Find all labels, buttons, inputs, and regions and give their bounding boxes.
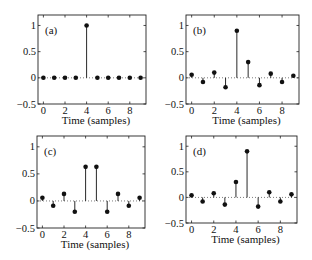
stem-marker: [212, 70, 217, 75]
stem-marker: [189, 72, 194, 77]
x-axis-label: Time (samples): [61, 238, 130, 251]
stem-marker: [268, 71, 273, 76]
stem-marker: [116, 192, 121, 197]
y-tick-label: −0.5: [17, 99, 36, 110]
stem-plot-figure: 02468−0.500.51(a)Time (samples)02468−0.5…: [0, 0, 312, 260]
stem-marker: [200, 199, 205, 204]
stem-marker: [289, 192, 294, 197]
stem-marker: [52, 76, 57, 81]
stem-marker: [41, 76, 46, 81]
y-tick-label: 0.5: [171, 46, 184, 57]
stem-marker: [83, 165, 88, 170]
x-axis-label: Time (samples): [62, 114, 131, 127]
panel-label: (a): [45, 24, 58, 37]
stem-marker: [73, 209, 78, 214]
stem-marker: [84, 23, 89, 28]
x-axis-label: Time (samples): [212, 114, 281, 127]
x-tick-label: 0: [189, 105, 194, 116]
stem-marker: [137, 195, 142, 200]
stem-marker: [201, 80, 206, 85]
stem-marker: [257, 83, 262, 88]
stem-marker: [95, 76, 100, 81]
y-tick-label: 0: [31, 72, 36, 83]
stem-marker: [51, 204, 56, 209]
x-axis-label: Time (samples): [211, 233, 280, 246]
y-tick-label: 0: [179, 72, 184, 83]
stem-marker: [105, 209, 110, 214]
y-tick-label: 1: [30, 141, 35, 152]
y-tick-label: −0.5: [165, 218, 184, 229]
stem-marker: [235, 28, 240, 33]
subplot-d: 02468−0.500.51(d)Time (samples): [165, 136, 297, 246]
stem-marker: [74, 76, 79, 81]
subplot-c: 02468−0.500.51(c)Time (samples): [16, 136, 145, 251]
subplot-a: 02468−0.500.51(a)Time (samples): [17, 15, 146, 127]
stem-marker: [234, 180, 239, 185]
y-tick-label: 0.5: [22, 168, 35, 179]
y-tick-label: 0.5: [23, 46, 36, 57]
y-tick-label: 1: [31, 20, 36, 31]
y-tick-label: −0.5: [16, 223, 35, 234]
stem-marker: [223, 202, 228, 207]
stem-marker: [127, 204, 132, 209]
stem-marker: [280, 80, 285, 85]
stem-marker: [223, 85, 228, 90]
y-tick-label: 0.5: [171, 166, 184, 177]
stem-marker: [211, 191, 216, 196]
stem-marker: [117, 76, 122, 81]
stem-marker: [245, 149, 250, 154]
y-tick-label: 0: [179, 192, 184, 203]
stem-marker: [62, 192, 67, 197]
stem-marker: [40, 195, 45, 200]
panel-label: (b): [193, 24, 206, 37]
y-tick-label: −0.5: [165, 99, 184, 110]
x-tick-label: 0: [189, 224, 194, 235]
stem-marker: [278, 199, 283, 204]
y-tick-label: 1: [179, 20, 184, 31]
panel-container: 02468−0.500.51(a)Time (samples)02468−0.5…: [16, 15, 299, 251]
x-tick-label: 0: [40, 229, 45, 240]
stem-marker: [94, 165, 99, 170]
y-tick-label: 0: [30, 195, 35, 206]
stem-marker: [128, 76, 133, 81]
stem-marker: [189, 193, 194, 198]
stem-marker: [267, 190, 272, 195]
panel-label: (d): [193, 145, 206, 158]
subplot-b: 02468−0.500.51(b)Time (samples): [165, 15, 299, 127]
stem-marker: [138, 76, 143, 81]
y-tick-label: 1: [179, 141, 184, 152]
stem-marker: [106, 76, 111, 81]
stem-marker: [291, 73, 296, 78]
stem-marker: [246, 60, 251, 65]
stem-marker: [63, 76, 68, 81]
panel-label: (c): [44, 145, 57, 158]
stem-marker: [256, 204, 261, 209]
x-tick-label: 0: [41, 105, 46, 116]
